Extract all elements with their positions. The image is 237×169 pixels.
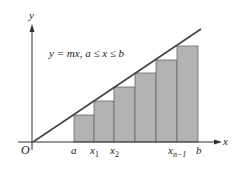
tick-label-a: a bbox=[71, 144, 77, 156]
riemann-sum-diagram: y x O y = mx, a ≤ x ≤ b a x1 x2 xn−1 b bbox=[0, 0, 237, 169]
tick-label-x2: x2 bbox=[109, 144, 119, 159]
tick-label-b: b bbox=[196, 144, 202, 156]
rectangle-bar bbox=[74, 115, 94, 142]
rectangle-bar bbox=[156, 60, 177, 142]
diagram-svg: y x O y = mx, a ≤ x ≤ b a x1 x2 xn−1 b bbox=[0, 0, 237, 169]
rectangle-bar bbox=[114, 87, 135, 142]
tick-label-xn-1: xn−1 bbox=[167, 144, 186, 159]
rectangle-bar bbox=[94, 101, 114, 142]
y-axis-arrow-icon bbox=[30, 24, 35, 32]
tick-label-x1: x1 bbox=[89, 144, 99, 159]
rectangle-bar bbox=[135, 73, 156, 142]
rectangles bbox=[74, 46, 198, 142]
equation-label: y = mx, a ≤ x ≤ b bbox=[48, 47, 125, 59]
origin-label: O bbox=[21, 143, 30, 157]
x-axis-arrow-icon bbox=[214, 140, 222, 145]
x-axis-label: x bbox=[222, 135, 228, 147]
rectangle-bar bbox=[177, 46, 198, 142]
y-axis-label: y bbox=[28, 9, 34, 21]
